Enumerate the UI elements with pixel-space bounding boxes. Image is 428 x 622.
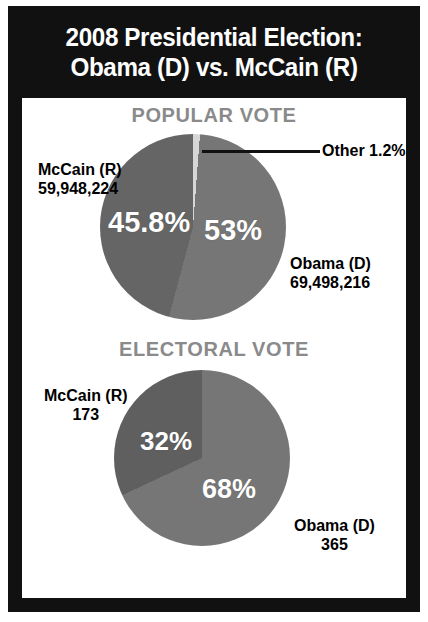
popular-other-callout: Other 1.2% <box>322 142 406 160</box>
popular-mccain-percent: 45.8% <box>108 206 190 239</box>
electoral-mccain-callout: McCain (R) 173 <box>44 386 128 424</box>
popular-mccain-callout: McCain (R) 59,948,224 <box>38 160 122 198</box>
electoral-mccain-votes: 173 <box>44 405 128 424</box>
popular-obama-votes: 69,498,216 <box>290 273 371 292</box>
popular-obama-percent: 53% <box>204 214 262 247</box>
popular-obama-name: Obama (D) <box>290 255 371 272</box>
other-leader-line <box>202 150 320 153</box>
electoral-vote-pie-graphic: 32% 68% <box>114 370 290 546</box>
title-bar: 2008 Presidential Election: Obama (D) vs… <box>8 6 420 98</box>
popular-mccain-votes: 59,948,224 <box>38 179 122 198</box>
electoral-vote-pie: 32% 68% <box>114 370 290 546</box>
title-line-1: 2008 Presidential Election: <box>66 22 363 52</box>
electoral-obama-name: Obama (D) <box>294 517 375 534</box>
electoral-mccain-name: McCain (R) <box>44 387 128 404</box>
popular-vote-pie: 45.8% 53% <box>100 134 286 320</box>
electoral-obama-votes: 365 <box>294 535 375 554</box>
popular-obama-callout: Obama (D) 69,498,216 <box>290 254 371 292</box>
popular-mccain-name: McCain (R) <box>38 161 122 178</box>
popular-vote-heading: POPULAR VOTE <box>22 104 406 127</box>
electoral-obama-callout: Obama (D) 365 <box>294 516 375 554</box>
chart-canvas: POPULAR VOTE 45.8% 53% McCain (R) 59,948… <box>22 98 406 598</box>
electoral-obama-percent: 68% <box>202 474 256 505</box>
electoral-mccain-percent: 32% <box>140 426 192 457</box>
infographic-poster: 2008 Presidential Election: Obama (D) vs… <box>8 6 420 612</box>
title-line-2: Obama (D) vs. McCain (R) <box>70 52 357 82</box>
popular-vote-pie-graphic: 45.8% 53% <box>100 134 286 320</box>
electoral-vote-heading: ELECTORAL VOTE <box>22 338 406 361</box>
